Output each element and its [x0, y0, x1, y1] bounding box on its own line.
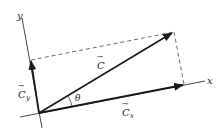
- vector-cx-label: C: [122, 107, 130, 118]
- vector-cy: [31, 61, 39, 113]
- vector-cy-label: C: [18, 89, 26, 100]
- dashed-projection-right: [174, 32, 184, 84]
- angle-theta-label: θ: [75, 93, 81, 103]
- vector-c: [39, 33, 172, 113]
- vector-cx: [39, 85, 183, 113]
- vector-cy-subscript: y: [25, 94, 31, 102]
- x-axis-label: x: [207, 75, 213, 86]
- vector-cx-subscript: x: [130, 112, 134, 120]
- angle-arc: [68, 96, 72, 106]
- y-axis-label: y: [16, 10, 23, 21]
- vector-components-diagram: y x → C → C y θ → C x: [0, 0, 221, 134]
- vector-c-label: C: [97, 60, 105, 71]
